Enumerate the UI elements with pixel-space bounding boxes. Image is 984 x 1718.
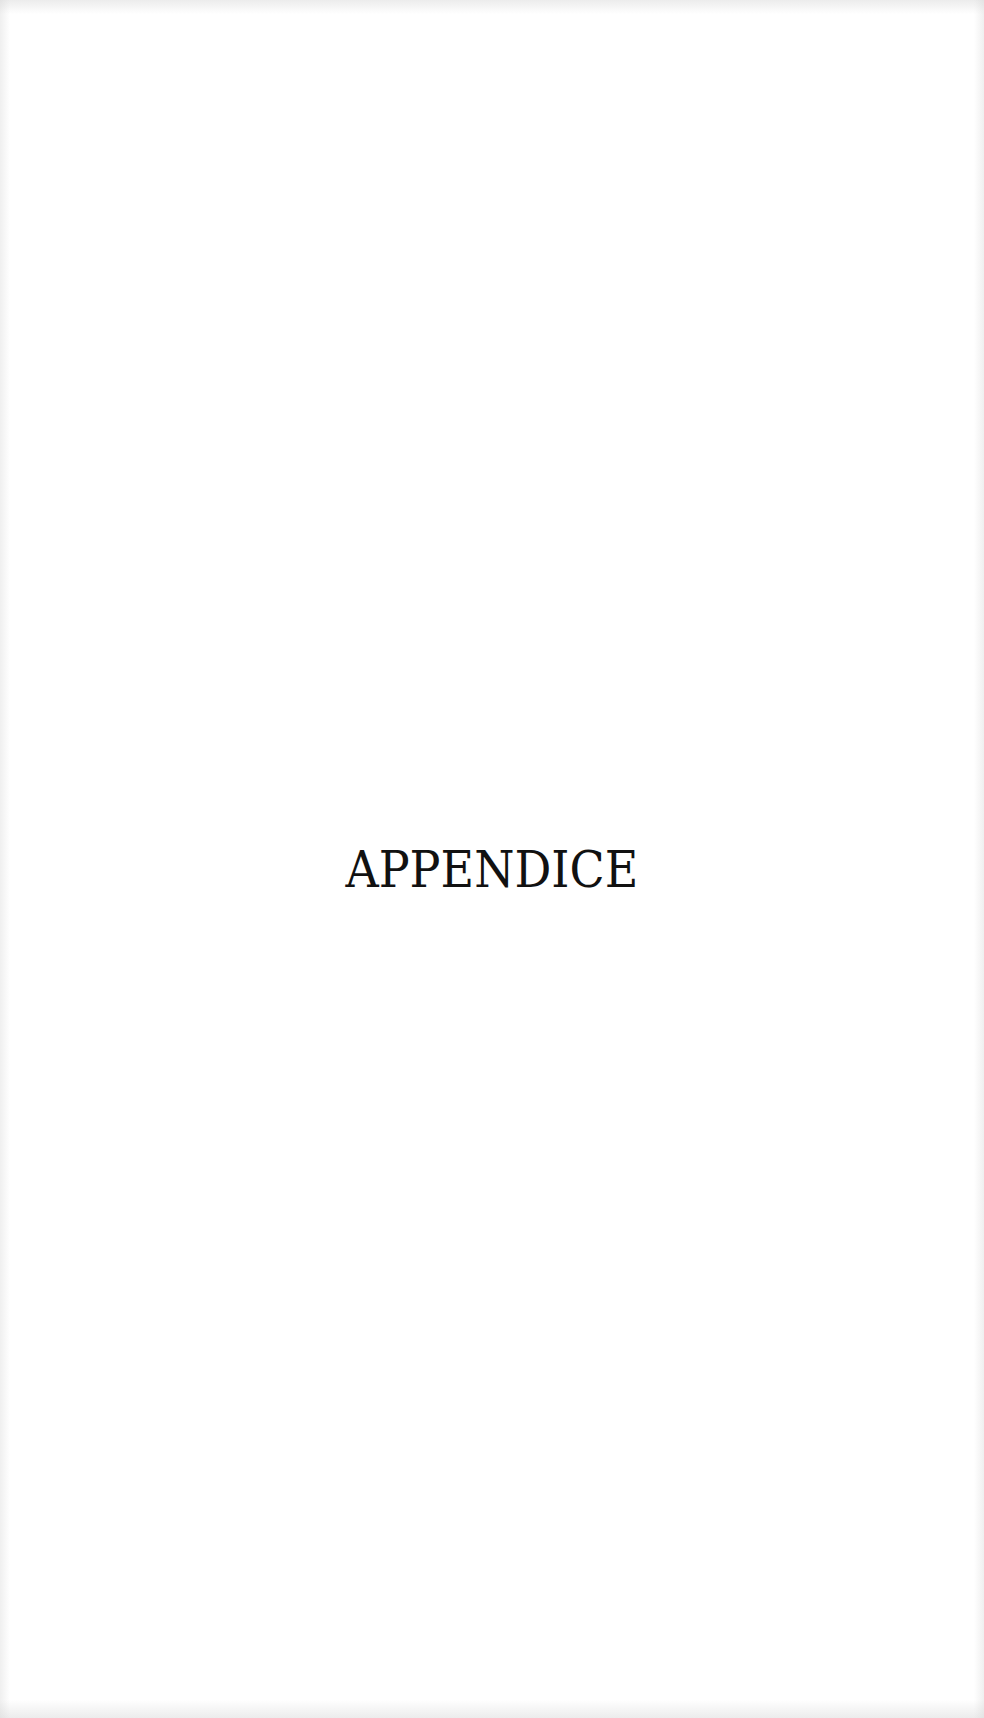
scan-edge-top [0, 0, 984, 14]
scan-edge-left [0, 0, 10, 1718]
book-page: APPENDICE [0, 0, 984, 1718]
scan-edge-bottom [0, 1700, 984, 1718]
scan-edge-right [974, 0, 984, 1718]
section-title: APPENDICE [39, 840, 944, 900]
